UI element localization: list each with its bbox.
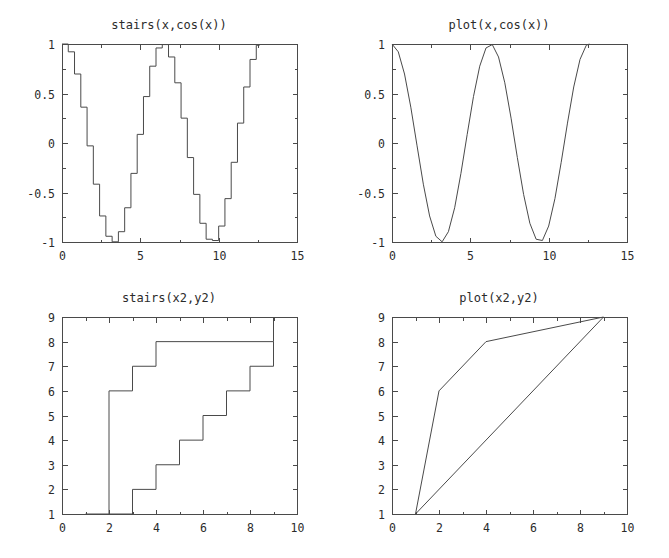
y-tick-label: 9	[378, 311, 385, 325]
x-tick-label: 0	[59, 249, 66, 263]
y-tick-label: 1	[48, 38, 55, 52]
y-tick-label: -1	[371, 236, 385, 250]
axes-frame	[393, 45, 628, 243]
subplot-top-right: plot(x,cos(x)) 051015-1-0.500.51	[338, 18, 660, 280]
figure-canvas: stairs(x,cos(x)) 051015-1-0.500.51 plot(…	[0, 0, 669, 558]
y-tick-label: 0	[48, 137, 55, 151]
y-tick-label: 2	[48, 483, 55, 497]
x-tick-label: 0	[389, 249, 396, 263]
data-series-series-a	[86, 317, 274, 514]
x-tick-label: 2	[106, 521, 113, 535]
subplot-bottom-left: stairs(x2,y2) 0246810123456789	[8, 291, 330, 553]
x-tick-label: 0	[389, 521, 396, 535]
y-tick-label: 8	[48, 336, 55, 350]
axes-frame	[63, 45, 298, 243]
y-tick-label: 7	[48, 360, 55, 374]
x-tick-label: 8	[577, 521, 584, 535]
x-tick-label: 5	[467, 249, 474, 263]
y-tick-label: -0.5	[27, 187, 55, 201]
y-tick-label: 6	[378, 385, 385, 399]
x-tick-label: 4	[483, 521, 490, 535]
y-tick-label: 0.5	[34, 88, 55, 102]
axes-frame	[63, 318, 298, 515]
x-tick-label: 4	[153, 521, 160, 535]
y-tick-label: 1	[378, 38, 385, 52]
plot-area-bottom-right: 0246810123456789	[338, 291, 660, 553]
data-series-series-main	[62, 44, 259, 242]
x-tick-label: 6	[530, 521, 537, 535]
data-series-series-main	[392, 44, 589, 242]
subplot-top-left: stairs(x,cos(x)) 051015-1-0.500.51	[8, 18, 330, 280]
plot-area-bottom-left: 0246810123456789	[8, 291, 330, 553]
axes-frame	[393, 318, 628, 515]
x-tick-label: 6	[200, 521, 207, 535]
x-tick-label: 10	[543, 249, 557, 263]
data-series-series-b	[416, 317, 604, 514]
y-tick-label: 1	[48, 508, 55, 522]
y-tick-label: 5	[378, 410, 385, 424]
y-tick-label: 3	[48, 459, 55, 473]
x-tick-label: 15	[621, 249, 635, 263]
y-tick-label: 1	[378, 508, 385, 522]
y-tick-label: 4	[378, 434, 385, 448]
x-tick-label: 10	[621, 521, 635, 535]
x-tick-label: 2	[436, 521, 443, 535]
x-tick-label: 10	[213, 249, 227, 263]
x-tick-label: 15	[291, 249, 305, 263]
y-tick-label: 6	[48, 385, 55, 399]
x-tick-label: 10	[291, 521, 305, 535]
plot-area-top-left: 051015-1-0.500.51	[8, 18, 330, 280]
y-tick-label: -0.5	[357, 187, 385, 201]
subplot-bottom-right: plot(x2,y2) 0246810123456789	[338, 291, 660, 553]
x-tick-label: 0	[59, 521, 66, 535]
x-tick-label: 8	[247, 521, 254, 535]
y-tick-label: 3	[378, 459, 385, 473]
data-series-series-b	[109, 342, 274, 514]
y-tick-label: 0.5	[364, 88, 385, 102]
y-tick-label: 0	[378, 137, 385, 151]
y-tick-label: 4	[48, 434, 55, 448]
y-tick-label: 2	[378, 483, 385, 497]
x-tick-label: 5	[137, 249, 144, 263]
y-tick-label: 9	[48, 311, 55, 325]
y-tick-label: 5	[48, 410, 55, 424]
y-tick-label: 8	[378, 336, 385, 350]
y-tick-label: 7	[378, 360, 385, 374]
y-tick-label: -1	[41, 236, 55, 250]
plot-area-top-right: 051015-1-0.500.51	[338, 18, 660, 280]
